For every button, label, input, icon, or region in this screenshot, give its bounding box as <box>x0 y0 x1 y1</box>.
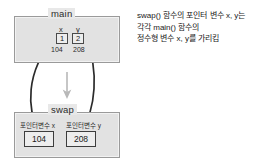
main-variable-x-value-cell: 1 <box>56 33 68 44</box>
swap-frame-title: swap <box>48 104 77 115</box>
annotation-text-block: swap() 함수의 포인터 변수 x, y는 각각 main() 함수의 정수… <box>137 10 259 45</box>
swap-pointer-x-value-cell: 104 <box>24 131 54 147</box>
swap-pointer-y-value-cell: 208 <box>66 131 96 147</box>
pointer-swap-diagram: main x y 1 2 104 208 swap 포인터변수 x 포인터변수 … <box>0 0 262 166</box>
swap-pointer-y-label: 포인터변수 y <box>66 120 101 130</box>
annotation-line-1: swap() 함수의 포인터 변수 x, y는 <box>137 10 259 22</box>
swap-pointer-x-label: 포인터변수 x <box>20 120 55 130</box>
main-variable-y-value-cell: 2 <box>72 33 84 44</box>
main-variable-y-address: 208 <box>73 46 85 53</box>
annotation-line-3: 정수형 변수 x, y를 가리킴 <box>137 33 259 45</box>
main-frame-title: main <box>48 8 75 19</box>
main-variable-x-address: 104 <box>51 46 63 53</box>
annotation-line-2: 각각 main() 함수의 <box>137 22 259 34</box>
